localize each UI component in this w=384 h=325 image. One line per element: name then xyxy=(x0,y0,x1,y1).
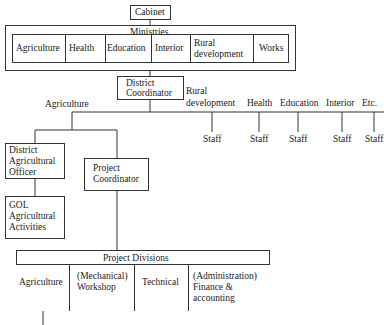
division-label: Finance & xyxy=(193,282,233,293)
dao-line1: District xyxy=(9,145,38,156)
ministries-box: Ministries Agriculture Health Education … xyxy=(5,25,296,71)
ministry-label: development xyxy=(194,49,243,60)
division-label: (Mechanical) xyxy=(77,271,128,282)
branch-health: Health xyxy=(247,98,272,109)
ministry-education: Education xyxy=(106,35,152,62)
branch-rural-line2: development xyxy=(186,98,235,109)
district-agricultural-officer-box: District Agricultural Officer xyxy=(5,143,65,179)
staff-label: Staff xyxy=(365,134,383,145)
dao-line3: Officer xyxy=(9,167,36,178)
branch-etc: Etc. xyxy=(362,98,377,109)
division-label: (Administration) xyxy=(193,271,257,282)
divisions-row: Agriculture (Mechanical) Workshop Techni… xyxy=(16,264,270,311)
cabinet-box: Cabinet xyxy=(130,5,171,20)
branch-agriculture: Agriculture xyxy=(45,99,89,110)
staff-label: Staff xyxy=(203,134,221,145)
division-label: Workshop xyxy=(77,282,116,293)
project-divisions-box: Project Divisions Agriculture (Mechanica… xyxy=(16,250,270,311)
ministry-rural-development: Rural development xyxy=(191,35,254,62)
division-administration: (Administration) Finance & accounting xyxy=(189,265,270,311)
gol-agricultural-activities-box: GOL Agricultural Activities xyxy=(5,196,65,239)
division-agriculture: Agriculture xyxy=(16,265,70,311)
ministry-label: Education xyxy=(107,43,146,54)
cabinet-label: Cabinet xyxy=(135,7,165,18)
division-mechanical-workshop: (Mechanical) Workshop xyxy=(70,265,135,311)
division-label: accounting xyxy=(193,293,235,304)
ministry-label: Agriculture xyxy=(16,43,60,54)
ministry-health: Health xyxy=(66,35,106,62)
ministry-agriculture: Agriculture xyxy=(13,35,66,62)
pc-line1: Project xyxy=(93,163,120,174)
gol-line1: GOL xyxy=(9,200,29,211)
branch-interior: Interior xyxy=(326,98,355,109)
ministry-label: Interior xyxy=(155,43,184,54)
pc-line2: Coordinator xyxy=(93,174,139,185)
ministries-row: Agriculture Health Education Interior Ru… xyxy=(12,34,289,63)
ministry-label: Health xyxy=(69,43,94,54)
ministry-label: Rural xyxy=(194,38,215,49)
dao-line2: Agricultural xyxy=(9,156,55,167)
district-coordinator-box: District Coordinator xyxy=(117,76,184,100)
division-technical: Technical xyxy=(135,265,189,311)
staff-label: Staff xyxy=(289,134,307,145)
branch-rural-line1: Rural xyxy=(186,86,207,97)
ministry-label: Works xyxy=(259,43,284,54)
division-label: Agriculture xyxy=(19,277,63,288)
staff-label: Staff xyxy=(250,134,268,145)
gol-line2: Agricultural xyxy=(9,211,55,222)
ministry-interior: Interior xyxy=(152,35,191,62)
project-divisions-title: Project Divisions xyxy=(103,253,169,264)
gol-line3: Activities xyxy=(9,222,46,233)
branch-education: Education xyxy=(280,98,319,109)
district-coordinator-line2: Coordinator xyxy=(126,88,172,99)
staff-label: Staff xyxy=(333,134,351,145)
project-coordinator-box: Project Coordinator xyxy=(84,158,149,191)
ministry-works: Works xyxy=(254,35,290,62)
division-label: Technical xyxy=(142,277,179,288)
